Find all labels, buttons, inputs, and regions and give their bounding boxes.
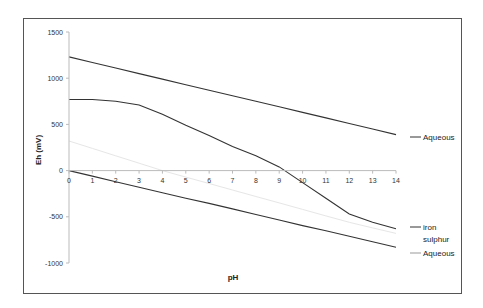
x-tick-label: 8 <box>254 177 258 184</box>
x-tick-label: 14 <box>392 177 400 184</box>
legend-label: Aqueous <box>423 133 455 142</box>
x-tick-label: 0 <box>67 177 71 184</box>
x-tick-label: 6 <box>207 177 211 184</box>
legend-label-line1: iron <box>423 223 436 232</box>
x-tick-label: 2 <box>114 177 118 184</box>
x-axis-title: pH <box>228 273 239 282</box>
x-tick-label: 10 <box>299 177 307 184</box>
legend-label: Aqueous <box>423 249 455 258</box>
x-tick-label: 9 <box>277 177 281 184</box>
x-tick-label: 13 <box>369 177 377 184</box>
x-tick-label: 12 <box>345 177 353 184</box>
x-tick-label: 11 <box>322 177 329 184</box>
y-tick-label: 0 <box>59 167 63 174</box>
y-axis-title: Eh (mV) <box>34 135 43 166</box>
x-tick-label: 1 <box>90 177 94 184</box>
chart: 150010005000-500-10000123456789101112131… <box>0 0 483 308</box>
x-tick-label: 5 <box>184 177 188 184</box>
y-tick-label: -500 <box>49 213 63 220</box>
y-tick-label: 1500 <box>47 29 63 36</box>
y-tick-label: -1000 <box>45 260 63 267</box>
legend-label-line2: sulphur <box>423 235 450 244</box>
x-tick-label: 7 <box>231 177 235 184</box>
y-tick-label: 1000 <box>47 75 63 82</box>
x-tick-label: 3 <box>137 177 141 184</box>
x-tick-label: 4 <box>160 177 164 184</box>
y-tick-label: 500 <box>51 121 63 128</box>
chart-frame <box>24 19 462 294</box>
eh-ph-line-chart: 150010005000-500-10000123456789101112131… <box>0 0 483 308</box>
